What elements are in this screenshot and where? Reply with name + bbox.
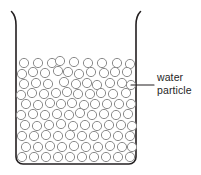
- water-particle: [80, 120, 89, 129]
- water-particle: [111, 110, 120, 119]
- water-particle: [20, 120, 29, 129]
- water-particle: [31, 78, 40, 87]
- water-particle: [33, 142, 42, 151]
- water-particle: [53, 66, 62, 75]
- water-particle: [45, 98, 54, 107]
- water-particle: [110, 67, 119, 76]
- water-particle: [16, 90, 25, 99]
- water-particle: [17, 69, 26, 78]
- water-particle: [40, 68, 49, 77]
- water-particle: [33, 58, 42, 67]
- water-particle: [90, 99, 99, 108]
- water-particle: [85, 89, 94, 98]
- water-particle: [52, 109, 61, 118]
- water-particle: [123, 109, 132, 118]
- water-particle: [99, 68, 108, 77]
- water-particle: [82, 78, 91, 87]
- water-particle-diagram: water particle: [0, 0, 201, 175]
- water-particle: [56, 119, 65, 128]
- callout-label-line1: water: [157, 71, 192, 84]
- water-particle: [113, 152, 122, 161]
- water-particle: [117, 142, 126, 151]
- water-particle: [93, 142, 102, 151]
- water-particle: [92, 121, 101, 130]
- water-particle: [56, 99, 65, 108]
- water-particle: [112, 58, 121, 67]
- water-particle: [127, 121, 136, 130]
- water-particle: [99, 109, 108, 118]
- water-particle: [43, 79, 52, 88]
- water-particle: [64, 110, 73, 119]
- water-particle: [96, 88, 105, 97]
- callout-label: water particle: [157, 71, 192, 97]
- water-particle: [101, 152, 110, 161]
- water-particle: [21, 99, 30, 108]
- water-particle: [53, 131, 62, 140]
- water-particle: [87, 110, 96, 119]
- water-particle: [127, 142, 136, 151]
- water-particle: [108, 89, 117, 98]
- water-particle: [40, 110, 49, 119]
- water-particle: [116, 120, 125, 129]
- water-particle: [41, 130, 50, 139]
- water-particle: [59, 77, 68, 86]
- water-particle: [81, 142, 90, 151]
- water-particle: [62, 87, 71, 96]
- water-particle: [71, 79, 80, 88]
- water-particle: [122, 67, 131, 76]
- water-particle: [55, 56, 64, 65]
- water-particle: [69, 141, 78, 150]
- callout-label-line2: particle: [157, 84, 192, 97]
- water-particle: [74, 69, 83, 78]
- water-particle: [125, 152, 134, 161]
- water-particle: [63, 67, 72, 76]
- water-particle: [39, 89, 48, 98]
- water-particle: [27, 88, 36, 97]
- water-particle: [19, 79, 28, 88]
- water-particle: [67, 98, 76, 107]
- water-particle: [41, 152, 50, 161]
- water-particle: [75, 108, 84, 117]
- water-particle: [126, 99, 135, 108]
- water-particle: [21, 142, 30, 151]
- water-particle: [89, 152, 98, 161]
- water-particle: [113, 131, 122, 140]
- water-particle: [104, 120, 113, 129]
- water-particle: [65, 152, 74, 161]
- water-particle: [28, 67, 37, 76]
- water-particle: [105, 78, 114, 87]
- water-particle: [101, 130, 110, 139]
- water-particle: [19, 58, 28, 67]
- water-particle: [102, 99, 111, 108]
- water-particle: [83, 58, 92, 67]
- water-particle: [77, 131, 86, 140]
- water-particle: [45, 141, 54, 150]
- water-particle: [105, 141, 114, 150]
- water-particle: [33, 100, 42, 109]
- water-particle: [97, 58, 106, 67]
- water-particle: [44, 120, 53, 129]
- water-particle: [125, 131, 134, 140]
- water-particle: [65, 130, 74, 139]
- water-particle: [86, 67, 95, 76]
- water-particle: [16, 110, 25, 119]
- water-particle: [69, 57, 78, 66]
- water-particle: [53, 152, 62, 161]
- water-particles: [16, 56, 136, 161]
- water-particle: [51, 88, 60, 97]
- water-particle: [121, 88, 130, 97]
- water-particle: [89, 131, 98, 140]
- water-particle: [77, 152, 86, 161]
- water-particle: [32, 121, 41, 130]
- water-particle: [29, 152, 38, 161]
- water-particle: [29, 131, 38, 140]
- water-particle: [73, 89, 82, 98]
- water-particle: [17, 131, 26, 140]
- water-particle: [114, 99, 123, 108]
- water-particle: [57, 142, 66, 151]
- water-particle: [117, 78, 126, 87]
- water-particle: [28, 109, 37, 118]
- water-particle: [68, 121, 77, 130]
- water-particle: [17, 152, 26, 161]
